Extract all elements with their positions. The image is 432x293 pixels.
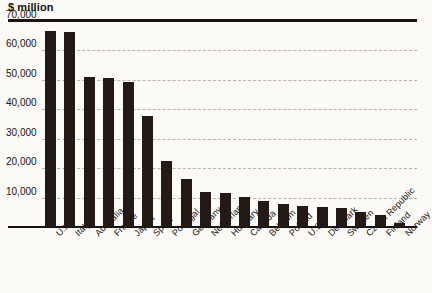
bar [375,215,386,227]
bar [317,207,328,227]
bar [336,208,347,227]
gridline [42,168,417,169]
bar [258,201,269,227]
gridline [42,50,417,51]
bar [64,32,75,227]
bar [394,223,405,227]
gridline [42,139,417,140]
gridline [42,80,417,81]
bar [103,78,114,227]
y-axis-tick-label: 20,000 [6,156,37,167]
y-axis-tick-label: 10,000 [6,186,37,197]
bar [278,204,289,227]
bar [239,197,250,227]
bar [220,193,231,227]
bar [355,212,366,227]
y-axis-tick-label: 50,000 [6,68,37,79]
bar [84,77,95,227]
bar [45,31,56,227]
y-axis-tick-label: 30,000 [6,127,37,138]
gridline [42,109,417,110]
bar [181,179,192,227]
y-axis-tick-label: 60,000 [6,38,37,49]
bar [142,116,153,227]
bar [200,192,211,227]
bar [161,161,172,227]
y-axis-tick-label: 70,000 [6,9,37,20]
y-axis-tick-label: 40,000 [6,97,37,108]
bar [297,206,308,227]
bar [123,82,134,227]
